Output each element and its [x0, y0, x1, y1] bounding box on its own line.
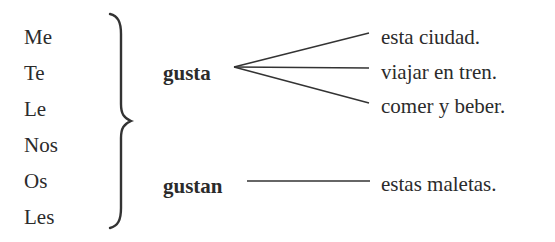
pronoun-me: Me [24, 27, 52, 48]
curly-brace [110, 14, 131, 228]
pronoun-nos: Nos [24, 135, 58, 156]
pronoun-le: Le [24, 99, 46, 120]
complement-viajar-en-tren: viajar en tren. [381, 62, 497, 83]
connector-line-3 [234, 67, 369, 103]
verb-gustan: gustan [163, 176, 223, 197]
complement-comer-y-beber: comer y beber. [381, 96, 505, 117]
pronoun-te: Te [24, 63, 45, 84]
pronoun-os: Os [24, 171, 47, 192]
verb-gusta: gusta [163, 63, 211, 84]
connector-line-1 [234, 33, 369, 67]
complement-estas-maletas: estas maletas. [381, 174, 496, 195]
pronoun-les: Les [24, 207, 54, 228]
connector-line-2 [234, 67, 369, 68]
complement-esta-ciudad: esta ciudad. [381, 27, 480, 48]
